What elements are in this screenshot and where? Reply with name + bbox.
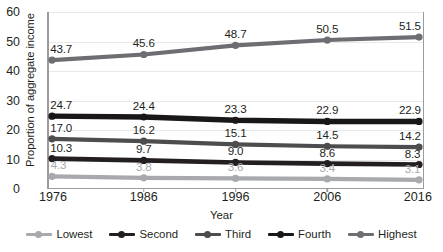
data-label: 23.3: [225, 102, 247, 115]
data-label: 3.8: [136, 160, 152, 173]
line-chart: Proportion of aggregate income 010203040…: [0, 0, 443, 252]
x-tick-label: 1986: [130, 190, 158, 204]
data-label: 3.4: [319, 161, 335, 174]
y-axis-title: Proportion of aggregate income: [24, 2, 36, 178]
data-point: [140, 174, 147, 181]
y-tick-label: 60: [0, 5, 20, 19]
legend-item-highest[interactable]: Highest: [348, 228, 417, 240]
legend-marker-icon: [109, 230, 135, 239]
legend-marker-icon: [268, 230, 294, 239]
legend-label: Third: [225, 228, 251, 240]
data-label: 24.4: [133, 99, 155, 112]
data-label: 24.7: [50, 98, 72, 111]
series-lowest: [48, 173, 422, 184]
y-tick-label: 50: [0, 35, 20, 49]
data-point: [48, 173, 55, 180]
legend-marker-icon: [348, 230, 374, 239]
data-label: 51.5: [399, 19, 421, 32]
y-tick-label: 20: [0, 123, 20, 137]
data-label: 10.3: [50, 141, 72, 154]
chart-legend: LowestSecondThirdFourthHighest: [0, 228, 443, 240]
data-label: 4.3: [51, 158, 67, 171]
legend-item-second[interactable]: Second: [109, 228, 178, 240]
data-label: 22.9: [316, 103, 338, 116]
data-point: [232, 117, 239, 124]
x-tick-label: 1976: [39, 190, 67, 204]
legend-label: Highest: [378, 228, 417, 240]
data-label: 9.0: [228, 144, 244, 157]
y-tick-label: 10: [0, 153, 20, 167]
data-point: [140, 113, 147, 120]
data-point: [324, 118, 331, 125]
data-label: 22.9: [399, 103, 421, 116]
data-point: [140, 51, 147, 58]
data-point: [232, 42, 239, 49]
x-tick-label: 1996: [221, 190, 249, 204]
data-label: 16.2: [133, 123, 155, 136]
data-label: 17.0: [50, 121, 72, 134]
data-point: [48, 56, 55, 63]
data-label: 14.2: [399, 129, 421, 142]
x-axis-title: Year: [0, 209, 443, 221]
data-point: [232, 175, 239, 182]
data-label: 3.1: [405, 162, 421, 175]
data-point: [415, 118, 422, 125]
data-label: 43.7: [50, 42, 72, 55]
data-label: 9.7: [136, 142, 152, 155]
x-tick-label: 2016: [404, 190, 432, 204]
y-tick-label: 40: [0, 64, 20, 78]
legend-item-fourth[interactable]: Fourth: [268, 228, 331, 240]
legend-item-third[interactable]: Third: [195, 228, 251, 240]
data-label: 3.6: [228, 160, 244, 173]
y-tick-label: 30: [0, 94, 20, 108]
legend-marker-icon: [195, 230, 221, 239]
data-point: [415, 33, 422, 40]
data-point: [324, 175, 331, 182]
data-label: 15.1: [225, 126, 247, 139]
data-label: 8.6: [319, 146, 335, 159]
data-label: 8.3: [405, 147, 421, 160]
legend-label: Second: [139, 228, 178, 240]
data-label: 48.7: [225, 27, 247, 40]
legend-label: Fourth: [298, 228, 331, 240]
data-point: [48, 113, 55, 120]
data-point: [415, 176, 422, 183]
legend-item-lowest[interactable]: Lowest: [26, 228, 92, 240]
data-point: [324, 36, 331, 43]
data-label: 45.6: [133, 36, 155, 49]
data-label: 50.5: [316, 22, 338, 35]
data-label: 14.5: [316, 128, 338, 141]
legend-label: Lowest: [56, 228, 92, 240]
legend-marker-icon: [26, 230, 52, 239]
y-tick-label: 0: [0, 182, 20, 196]
x-tick-label: 2006: [313, 190, 341, 204]
